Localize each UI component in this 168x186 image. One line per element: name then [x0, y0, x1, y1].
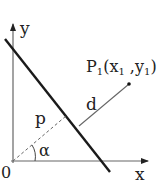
normal-form-line-diagram: y x 0 p d α P1(x1 ,y1)	[0, 0, 168, 186]
x-axis-label: x	[135, 164, 145, 184]
point-p1	[127, 82, 131, 86]
p-label: p	[35, 108, 46, 128]
y-axis-label: y	[19, 18, 30, 38]
point-p1-label: P1(x1 ,y1)	[86, 57, 157, 77]
alpha-label: α	[39, 141, 50, 160]
origin-label: 0	[1, 163, 11, 182]
angle-arc-alpha	[32, 145, 35, 161]
d-label: d	[86, 94, 97, 114]
